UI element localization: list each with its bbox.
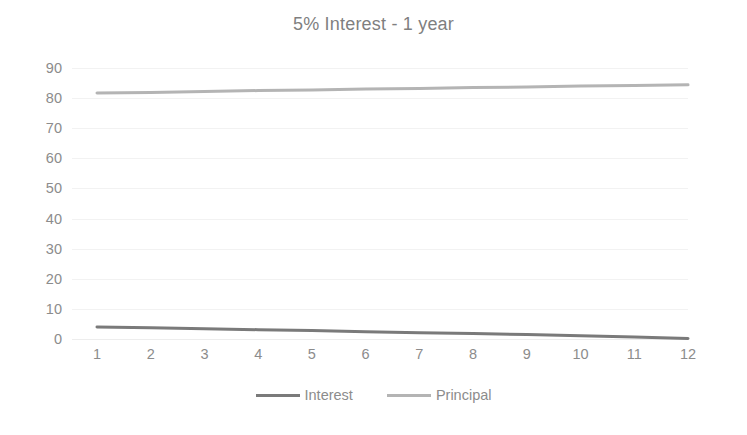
x-axis-tick-label: 3 xyxy=(200,347,208,362)
x-axis-tick-label: 9 xyxy=(523,347,531,362)
x-axis-tick-label: 8 xyxy=(469,347,477,362)
x-axis-tick-label: 6 xyxy=(362,347,370,362)
x-axis-tick-label: 1 xyxy=(93,347,101,362)
y-axis-tick-label: 90 xyxy=(0,61,62,76)
x-axis-tick-label: 7 xyxy=(415,347,423,362)
y-axis-tick-label: 0 xyxy=(0,332,62,347)
y-axis-tick-label: 10 xyxy=(0,302,62,317)
y-axis: 0102030405060708090 xyxy=(0,68,62,339)
y-axis-tick-label: 20 xyxy=(0,272,62,287)
chart-title: 5% Interest - 1 year xyxy=(0,14,747,35)
y-axis-tick-label: 60 xyxy=(0,151,62,166)
y-axis-tick-label: 70 xyxy=(0,121,62,136)
x-axis-tick-label: 4 xyxy=(254,347,262,362)
gridline xyxy=(72,339,688,340)
legend-line-swatch xyxy=(387,394,431,397)
x-axis-tick-label: 2 xyxy=(147,347,155,362)
x-axis-tick-label: 5 xyxy=(308,347,316,362)
legend-label: Principal xyxy=(436,388,492,403)
legend-item-principal[interactable]: Principal xyxy=(387,388,492,403)
plot-area xyxy=(72,68,688,339)
series-line-interest xyxy=(97,327,688,338)
y-axis-tick-label: 40 xyxy=(0,211,62,226)
legend-label: Interest xyxy=(305,388,353,403)
series-line-principal xyxy=(97,85,688,93)
x-axis: 123456789101112 xyxy=(72,347,688,369)
x-axis-tick-label: 10 xyxy=(572,347,588,362)
legend-line-swatch xyxy=(256,394,300,397)
legend-item-interest[interactable]: Interest xyxy=(256,388,353,403)
chart-legend: InterestPrincipal xyxy=(0,388,747,403)
chart-container: 5% Interest - 1 year 0102030405060708090… xyxy=(0,0,747,435)
y-axis-tick-label: 30 xyxy=(0,241,62,256)
x-axis-tick-label: 12 xyxy=(680,347,696,362)
series-layer xyxy=(72,68,688,339)
y-axis-tick-label: 80 xyxy=(0,91,62,106)
y-axis-tick-label: 50 xyxy=(0,181,62,196)
x-axis-tick-label: 11 xyxy=(627,347,642,362)
